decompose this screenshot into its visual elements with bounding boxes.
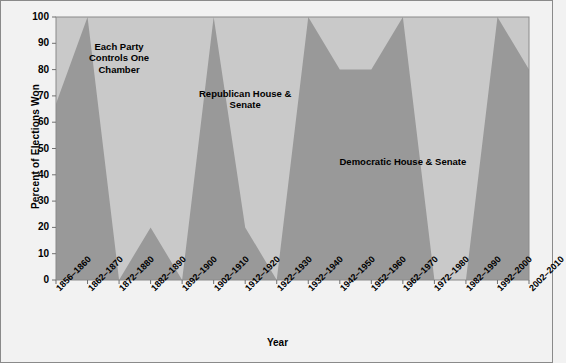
chart-annotation: Republican House & Senate bbox=[180, 88, 310, 111]
y-tick-label: 50 bbox=[15, 143, 49, 154]
y-tick-label: 80 bbox=[15, 64, 49, 75]
y-tick-label: 70 bbox=[15, 90, 49, 101]
chart-annotation: Democratic House & Senate bbox=[338, 156, 468, 168]
y-tick-label: 40 bbox=[15, 169, 49, 180]
y-tick-label: 10 bbox=[15, 248, 49, 259]
y-tick-label: 60 bbox=[15, 116, 49, 127]
y-tick-label: 90 bbox=[15, 37, 49, 48]
y-tick-label: 0 bbox=[15, 274, 49, 285]
y-tick-label: 20 bbox=[15, 221, 49, 232]
chart-annotation: Each Party Controls One Chamber bbox=[54, 41, 184, 76]
y-tick-label: 100 bbox=[15, 11, 49, 22]
y-tick-label: 30 bbox=[15, 195, 49, 206]
